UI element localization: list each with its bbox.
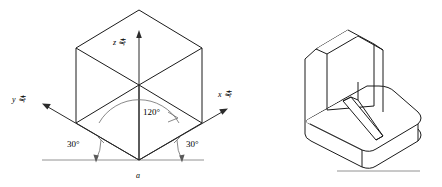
angle-arc-30-right-arrowhead	[179, 155, 184, 163]
left-diagram-group	[42, 10, 228, 163]
y-axis-arrowhead	[42, 104, 51, 110]
right-diagram-group	[305, 30, 421, 171]
wall-top-right-cap	[374, 44, 383, 50]
angle-arc-30-left-arrowhead	[93, 155, 98, 163]
x-axis-arrowhead	[219, 109, 228, 115]
technical-drawing-svg	[0, 0, 442, 187]
figure-canvas: z 축 x 축 y 축 120° 30° 30° a	[0, 0, 442, 187]
